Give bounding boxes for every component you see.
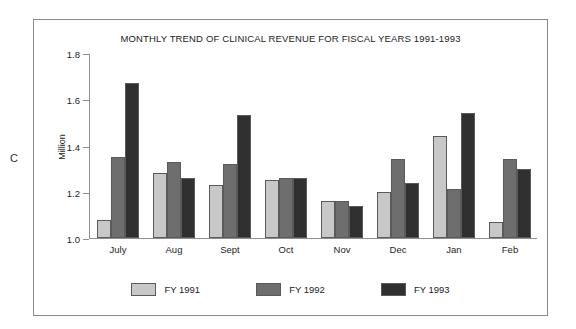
bar-fy-1993-oct [293, 178, 307, 238]
bar-fy-1991-feb [489, 222, 503, 238]
bar-fy-1993-aug [181, 178, 195, 238]
bar-group: July [97, 54, 140, 238]
legend-label: FY 1992 [289, 284, 325, 295]
bar-fy-1991-aug [153, 173, 167, 238]
legend-swatch-icon [256, 283, 281, 296]
chart-figure-frame: MONTHLY TREND OF CLINICAL REVENUE FOR FI… [33, 19, 548, 316]
plot-area: Million 1.81.61.41.21.0 JulyAugSeptOctNo… [89, 54, 537, 239]
x-axis-tick-label: Aug [166, 244, 183, 255]
bar-group: Jan [433, 54, 476, 238]
legend-swatch-icon [131, 283, 156, 296]
bar-fy-1991-oct [265, 180, 279, 238]
bar-group: Oct [265, 54, 308, 238]
y-axis-tick [83, 147, 89, 148]
x-axis-tick-label: Dec [390, 244, 407, 255]
legend-item[interactable]: FY 1991 [131, 283, 200, 296]
legend-swatch-icon [381, 283, 406, 296]
legend-item[interactable]: FY 1993 [381, 283, 450, 296]
bar-group: Nov [321, 54, 364, 238]
bar-fy-1991-dec [377, 192, 391, 238]
bar-fy-1992-sept [223, 164, 237, 238]
bar-fy-1992-jan [447, 189, 461, 238]
legend-item[interactable]: FY 1992 [256, 283, 325, 296]
bar-fy-1991-sept [209, 185, 223, 238]
bars-layer: JulyAugSeptOctNovDecJanFeb [90, 54, 537, 238]
bar-group: Sept [209, 54, 252, 238]
y-axis-tick-label: 1.0 [67, 234, 80, 245]
bar-fy-1993-feb [517, 169, 531, 238]
figure-panel-letter: C [10, 152, 18, 164]
x-axis-line [89, 238, 537, 239]
bar-fy-1993-july [125, 83, 139, 238]
x-axis-tick-label: July [110, 244, 127, 255]
x-axis-tick-label: Nov [334, 244, 351, 255]
x-axis-tick-label: Sept [220, 244, 240, 255]
y-axis-tick-label: 1.6 [67, 95, 80, 106]
chart-title: MONTHLY TREND OF CLINICAL REVENUE FOR FI… [34, 33, 547, 44]
x-axis-tick-label: Feb [502, 244, 518, 255]
bar-fy-1993-dec [405, 183, 419, 239]
y-axis-tick [83, 54, 89, 55]
bar-fy-1993-sept [237, 115, 251, 238]
y-axis-tick-label: 1.4 [67, 141, 80, 152]
y-axis-title: Million [57, 134, 67, 160]
y-axis-tick [83, 239, 89, 240]
legend-label: FY 1991 [164, 284, 200, 295]
bar-fy-1992-feb [503, 159, 517, 238]
bar-group: Aug [153, 54, 196, 238]
bar-group: Feb [489, 54, 532, 238]
x-axis-tick-label: Oct [279, 244, 294, 255]
bar-group: Dec [377, 54, 420, 238]
bar-fy-1991-jan [433, 136, 447, 238]
y-axis-tick-label: 1.8 [67, 49, 80, 60]
bar-fy-1992-dec [391, 159, 405, 238]
y-axis-tick [83, 193, 89, 194]
bar-fy-1993-nov [349, 206, 363, 238]
bar-fy-1992-aug [167, 162, 181, 238]
chart-legend: FY 1991FY 1992FY 1993 [34, 283, 547, 296]
y-axis-tick [83, 100, 89, 101]
bar-fy-1991-july [97, 220, 111, 239]
bar-fy-1993-jan [461, 113, 475, 238]
x-axis-tick-label: Jan [446, 244, 461, 255]
bar-fy-1992-oct [279, 178, 293, 238]
bar-fy-1992-july [111, 157, 125, 238]
bar-fy-1991-nov [321, 201, 335, 238]
y-axis-tick-label: 1.2 [67, 187, 80, 198]
bar-fy-1992-nov [335, 201, 349, 238]
legend-label: FY 1993 [414, 284, 450, 295]
